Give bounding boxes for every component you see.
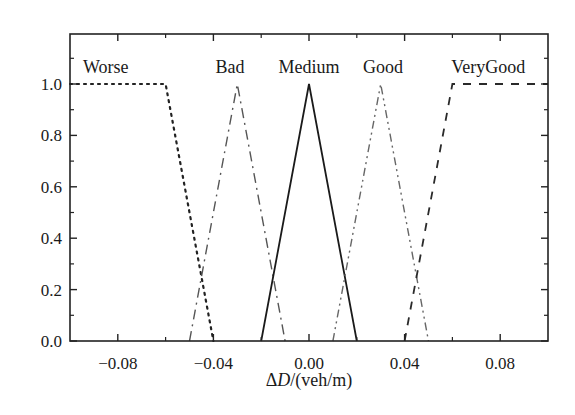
y-tick-label: 0.6: [41, 178, 62, 197]
y-tick-label: 1.0: [41, 75, 62, 94]
axes: −0.08−0.040.000.040.080.00.20.40.60.81.0: [41, 34, 548, 373]
series-label-good: Good: [363, 57, 403, 77]
x-tick-label: 0.04: [390, 354, 420, 373]
membership-function-chart: WorseBadMediumGoodVeryGood −0.08−0.040.0…: [0, 0, 575, 415]
series-line-good: [333, 84, 429, 341]
series-line-worse: [70, 84, 213, 341]
y-tick-label: 0.0: [41, 332, 62, 351]
series-label-medium: Medium: [279, 57, 340, 77]
x-axis-label: ΔD/(veh/m): [266, 370, 353, 391]
plot-frame: [70, 34, 548, 341]
series-line-verygood: [405, 84, 548, 341]
series-label-worse: Worse: [83, 57, 129, 77]
y-tick-label: 0.8: [41, 126, 62, 145]
series-layer: [70, 84, 548, 341]
series-line-medium: [261, 84, 357, 341]
x-tick-label: 0.08: [485, 354, 515, 373]
series-line-bad: [190, 84, 286, 341]
series-labels: WorseBadMediumGoodVeryGood: [83, 57, 525, 77]
y-tick-label: 0.4: [41, 229, 63, 248]
y-tick-label: 0.2: [41, 281, 62, 300]
series-label-verygood: VeryGood: [451, 57, 525, 77]
series-label-bad: Bad: [216, 57, 245, 77]
x-tick-label: −0.04: [194, 354, 234, 373]
x-tick-label: −0.08: [98, 354, 137, 373]
